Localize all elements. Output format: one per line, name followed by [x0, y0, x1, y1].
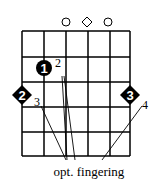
finger-marker-1: 1 — [36, 60, 52, 76]
chord-diagram: 1 2 2 3 3 4 opt. fingering — [0, 0, 158, 190]
finger-marker-3-diamond: 3 — [120, 85, 140, 105]
alt-finger-label-3: 3 — [34, 95, 40, 109]
svg-text:2: 2 — [18, 88, 25, 103]
finger-marker-2-diamond: 2 — [12, 85, 32, 105]
open-string-marker-3 — [62, 18, 70, 26]
open-string-marker-4-diamond — [82, 17, 92, 27]
alt-finger-label-2: 2 — [55, 56, 61, 70]
caption: opt. fingering — [54, 164, 125, 179]
svg-text:1: 1 — [40, 61, 47, 76]
alt-finger-label-4: 4 — [142, 98, 148, 112]
fretboard-grid — [22, 31, 130, 156]
svg-text:3: 3 — [126, 88, 133, 103]
open-string-marker-5 — [104, 18, 112, 26]
